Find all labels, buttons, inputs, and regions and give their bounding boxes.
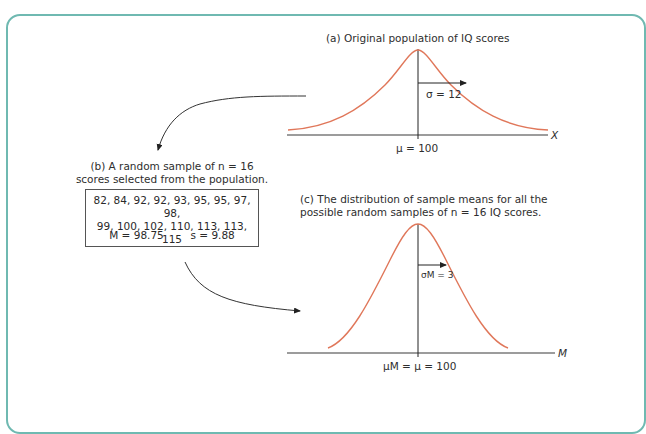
arrow-population-to-sample — [158, 96, 306, 150]
axis-label-m: M — [558, 347, 567, 360]
panel-a-title: (a) Original population of IQ scores — [326, 32, 509, 45]
axis-label-x: X — [551, 129, 558, 142]
panel-c-title-line2: possible random samples of n = 16 IQ sco… — [300, 206, 541, 219]
sample-mean: M = 98.75 — [109, 229, 164, 241]
mu-label-a: μ = 100 — [396, 142, 438, 155]
panel-b-title-line2: scores selected from the population. — [70, 173, 274, 186]
population-distribution — [287, 49, 548, 139]
panel-b-title-line1: (b) A random sample of n = 16 — [70, 160, 274, 173]
sigma-label-a: σ = 12 — [426, 88, 462, 101]
sampling-distribution — [287, 224, 555, 357]
sample-stats: M = 98.75 s = 9.88 — [86, 229, 258, 241]
sigma-label-c: σM = 3 — [421, 269, 453, 282]
mu-label-c: μM = μ = 100 — [383, 360, 456, 373]
sample-values-line1: 82, 84, 92, 92, 93, 95, 95, 97, 98, — [86, 194, 258, 220]
panel-c-title-line1: (c) The distribution of sample means for… — [300, 193, 548, 206]
sample-sd: s = 9.88 — [190, 229, 234, 241]
arrow-sample-to-distribution — [185, 262, 300, 311]
sample-box: 82, 84, 92, 92, 93, 95, 95, 97, 98, 99, … — [85, 189, 259, 247]
